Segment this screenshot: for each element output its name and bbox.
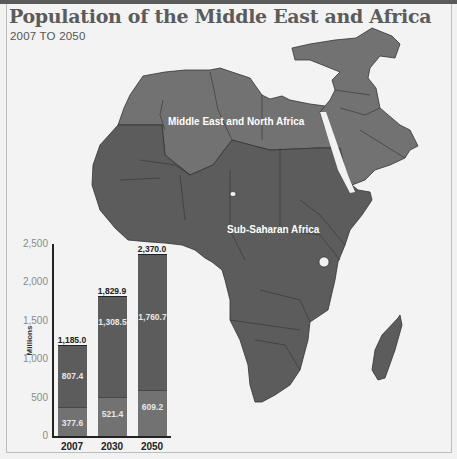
- bar-2030-total: 1,829.9: [92, 286, 132, 296]
- map-lake-chad: [230, 192, 236, 197]
- map-sub-saharan-africa: [92, 125, 372, 402]
- label-ssa: Sub-Saharan Africa: [227, 224, 319, 235]
- bar-2007-total: 1,185.0: [52, 335, 92, 345]
- xcat-2007: 2007: [52, 441, 92, 452]
- xcat-2030: 2030: [92, 441, 132, 452]
- bar-2007-mena-value: 377.6: [58, 418, 87, 428]
- segment-divider: [98, 397, 127, 398]
- bar-2050-ssa-value: 1,760.7: [138, 312, 167, 322]
- bar-2050-mena-value: 609.2: [138, 402, 167, 412]
- segment-divider: [138, 390, 167, 391]
- xcat-2050: 2050: [132, 441, 172, 452]
- bar-2050-total-line: [138, 254, 167, 255]
- ytick-0: 0: [8, 430, 48, 441]
- ytick-2000: 2,000: [8, 276, 48, 287]
- segment-divider: [58, 407, 87, 408]
- bar-2030-mena-value: 521.4: [98, 409, 127, 419]
- y-axis-line: [52, 244, 54, 438]
- bar-2030-ssa-segment: [98, 296, 127, 397]
- ytick-2500: 2,500: [8, 238, 48, 249]
- chart-title: Population of the Middle East and Africa: [9, 5, 431, 27]
- bar-2030: 1,308.5 521.4: [98, 296, 127, 436]
- map-madagascar: [372, 315, 402, 380]
- bar-2007: 807.4 377.6: [58, 345, 87, 436]
- bar-2030-ssa-value: 1,308.5: [98, 317, 127, 327]
- y-axis-label: Millions: [25, 321, 34, 361]
- bar-2050-total: 2,370.0: [132, 244, 172, 254]
- ytick-500: 500: [8, 392, 48, 403]
- bar-2007-ssa-value: 807.4: [58, 371, 87, 381]
- label-mena: Middle East and North Africa: [168, 116, 304, 127]
- map-lake-victoria: [319, 257, 329, 267]
- bar-2007-total-line: [58, 345, 87, 346]
- bar-2050-mena-segment: [138, 390, 167, 436]
- x-axis-line: [52, 436, 171, 438]
- bar-2030-total-line: [98, 296, 127, 297]
- chart-subtitle: 2007 TO 2050: [10, 30, 86, 42]
- bar-2050: 1,760.7 609.2: [138, 254, 167, 436]
- bar-2050-ssa-segment: [138, 254, 167, 390]
